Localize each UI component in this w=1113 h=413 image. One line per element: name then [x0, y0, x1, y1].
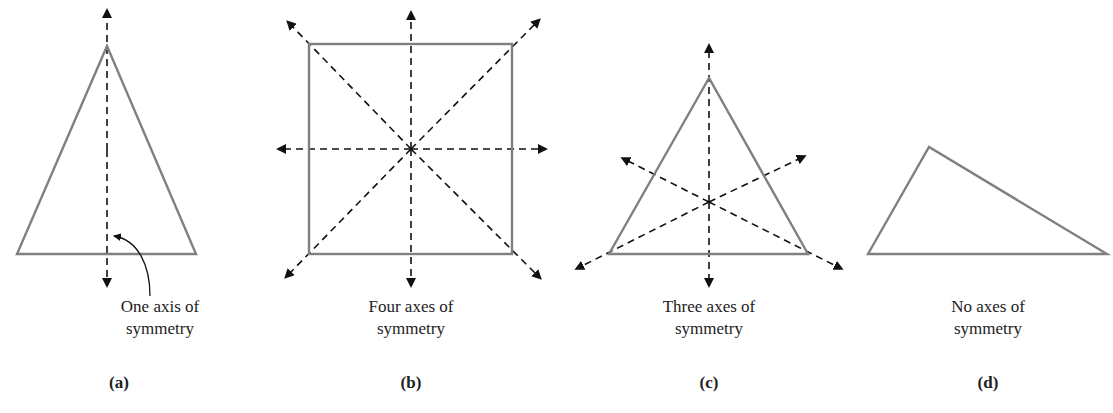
- label-a: (a): [89, 373, 149, 393]
- figure-b-axes: [280, 14, 544, 284]
- caption-c-line1: Three axes of: [609, 296, 809, 318]
- caption-c-line2: symmetry: [609, 318, 809, 340]
- label-d: (d): [958, 373, 1018, 393]
- figure-c-axes: [578, 47, 840, 284]
- caption-a: One axis of symmetry: [60, 296, 260, 340]
- caption-a-line1: One axis of: [60, 296, 260, 318]
- caption-a-line2: symmetry: [60, 318, 260, 340]
- pointer-arrow-icon: [114, 236, 150, 296]
- caption-d: No axes of symmetry: [888, 296, 1088, 340]
- scalene-triangle: [868, 147, 1107, 254]
- caption-b-line2: symmetry: [311, 318, 511, 340]
- caption-d-line2: symmetry: [888, 318, 1088, 340]
- label-b: (b): [381, 373, 441, 393]
- caption-b-line1: Four axes of: [311, 296, 511, 318]
- symmetry-diagram: [0, 0, 1113, 413]
- caption-b: Four axes of symmetry: [311, 296, 511, 340]
- label-c: (c): [679, 373, 739, 393]
- caption-c: Three axes of symmetry: [609, 296, 809, 340]
- caption-d-line1: No axes of: [888, 296, 1088, 318]
